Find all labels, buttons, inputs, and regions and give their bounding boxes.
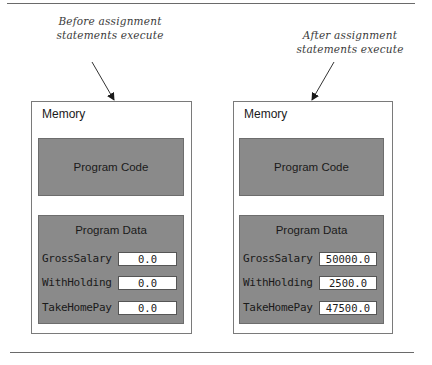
program-data-label: Program Data bbox=[240, 224, 383, 236]
variable-row: TakeHomePay 0.0 bbox=[39, 301, 183, 315]
arrow-before bbox=[92, 62, 114, 100]
program-code-label: Program Code bbox=[274, 161, 349, 173]
variable-row: TakeHomePay 47500.0 bbox=[240, 301, 383, 315]
arrow-after bbox=[312, 62, 334, 100]
variable-name: WithHolding bbox=[42, 276, 112, 290]
variable-value: 0.0 bbox=[118, 276, 177, 290]
variable-name: TakeHomePay bbox=[243, 301, 313, 315]
variable-value: 47500.0 bbox=[319, 301, 377, 315]
memory-label: Memory bbox=[42, 107, 85, 121]
variable-row: WithHolding 2500.0 bbox=[240, 276, 383, 290]
variable-name: GrossSalary bbox=[243, 252, 313, 266]
memory-after: Memory Program Code Program Data GrossSa… bbox=[233, 101, 393, 334]
variable-name: WithHolding bbox=[243, 276, 313, 290]
program-code-box: Program Code bbox=[38, 138, 184, 196]
program-data-box: Program Data GrossSalary 0.0 WithHolding… bbox=[38, 215, 184, 324]
program-data-label: Program Data bbox=[39, 224, 183, 236]
variable-row: GrossSalary 50000.0 bbox=[240, 252, 383, 266]
program-code-label: Program Code bbox=[74, 161, 149, 173]
variable-value: 2500.0 bbox=[319, 276, 377, 290]
variable-name: TakeHomePay bbox=[42, 301, 112, 315]
memory-label: Memory bbox=[244, 107, 287, 121]
program-code-box: Program Code bbox=[239, 138, 384, 196]
program-data-box: Program Data GrossSalary 50000.0 WithHol… bbox=[239, 215, 384, 324]
variable-row: GrossSalary 0.0 bbox=[39, 252, 183, 266]
variable-value: 0.0 bbox=[118, 252, 177, 266]
variable-value: 0.0 bbox=[118, 301, 177, 315]
variable-row: WithHolding 0.0 bbox=[39, 276, 183, 290]
variable-value: 50000.0 bbox=[319, 252, 377, 266]
memory-before: Memory Program Code Program Data GrossSa… bbox=[31, 101, 192, 334]
variable-name: GrossSalary bbox=[42, 252, 112, 266]
